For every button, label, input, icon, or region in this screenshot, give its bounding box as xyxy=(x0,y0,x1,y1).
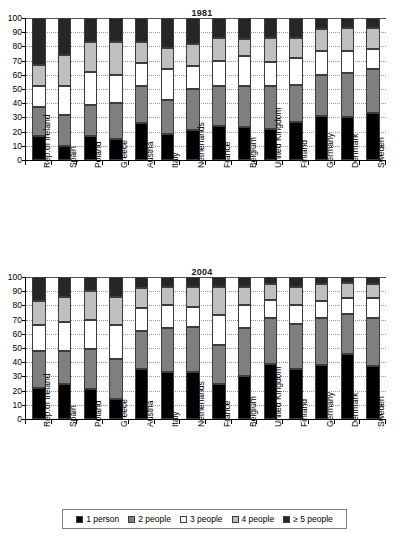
bar-segment xyxy=(161,48,174,69)
bar-greece xyxy=(109,18,122,160)
y-tick-label: 100 xyxy=(8,273,22,281)
x-tick-mark xyxy=(385,420,386,424)
y-tick-label: 30 xyxy=(13,113,22,121)
bar-segment xyxy=(161,287,174,305)
bar-segment xyxy=(341,283,354,299)
bar-segment xyxy=(289,58,302,85)
bar-segment xyxy=(212,18,225,38)
legend-item: 1 person xyxy=(76,514,119,524)
y-tick-label: 20 xyxy=(13,387,22,395)
legend-label: 4 people xyxy=(242,514,275,524)
bar-segment xyxy=(186,44,199,67)
bar-france xyxy=(212,18,225,160)
bar-segment xyxy=(212,61,225,87)
bar-segment xyxy=(238,86,251,127)
y-tick-label: 90 xyxy=(13,28,22,36)
bar-spain xyxy=(58,18,71,160)
bar-segment xyxy=(135,63,148,86)
y-tick-label: 60 xyxy=(13,71,22,79)
bar-segment xyxy=(238,287,251,305)
plot-wrap-2004: 0102030405060708090100Rep.of IrelandSpai… xyxy=(0,277,404,507)
bar-segment xyxy=(161,100,174,134)
plot-wrap-1981: 0102030405060708090100Rep.of IrelandSpai… xyxy=(0,18,404,258)
bar-finland xyxy=(289,277,302,419)
bar-segment xyxy=(289,277,302,287)
y-tick-label: 70 xyxy=(13,316,22,324)
y-tick-label: 40 xyxy=(13,99,22,107)
bar-segment xyxy=(109,103,122,139)
x-tick-mark xyxy=(308,420,309,424)
bar-segment xyxy=(161,69,174,100)
bar-segment xyxy=(341,298,354,314)
bar-segment xyxy=(315,75,328,116)
bar-segment xyxy=(58,297,71,323)
bar-segment xyxy=(212,345,225,383)
y-tick-label: 50 xyxy=(13,85,22,93)
x-tick-mark xyxy=(385,161,386,165)
x-tick-mark xyxy=(76,420,77,424)
legend-label: 2 people xyxy=(138,514,171,524)
x-tick-mark xyxy=(308,161,309,165)
bar-segment xyxy=(366,49,379,69)
bar-segment xyxy=(84,72,97,105)
bar-segment xyxy=(315,277,328,284)
bar-segment xyxy=(109,359,122,399)
bar-segment xyxy=(238,56,251,86)
y-tick-label: 10 xyxy=(13,142,22,150)
bar-segment xyxy=(84,291,97,319)
legend-swatch-icon xyxy=(128,516,135,523)
bar-segment xyxy=(315,301,328,318)
x-tick-mark xyxy=(256,420,257,424)
bar-segment xyxy=(32,86,45,107)
bar-segment xyxy=(58,351,71,384)
x-tick-mark xyxy=(154,420,155,424)
x-tick-label: United Kingdom xyxy=(273,367,283,427)
x-tick-label: Rep.of Ireland xyxy=(42,115,52,168)
bar-segment xyxy=(366,284,379,298)
legend-item: 2 people xyxy=(128,514,171,524)
legend-label: 3 people xyxy=(190,514,223,524)
bar-segment xyxy=(84,18,97,42)
bar-segment xyxy=(58,322,71,350)
bar-segment xyxy=(109,75,122,103)
bar-segment xyxy=(264,38,277,62)
bar-segment xyxy=(341,73,354,117)
bar-segment xyxy=(135,277,148,288)
x-tick-mark xyxy=(179,420,180,424)
bar-segment xyxy=(264,318,277,363)
chart-panel-1981: 1981 0102030405060708090100Rep.of Irelan… xyxy=(0,0,404,265)
legend-item: ≥ 5 people xyxy=(283,514,333,524)
bar-segment xyxy=(315,51,328,75)
bar-segment xyxy=(341,314,354,354)
bar-italy xyxy=(161,18,174,160)
bar-austria xyxy=(135,18,148,160)
bar-segment xyxy=(32,277,45,301)
legend-label: 1 person xyxy=(86,514,119,524)
y-tick-label: 80 xyxy=(13,42,22,50)
bar-segment xyxy=(161,305,174,328)
bar-segment xyxy=(341,51,354,74)
bar-france xyxy=(212,277,225,419)
x-tick-mark xyxy=(359,161,360,165)
bar-segment xyxy=(109,325,122,359)
x-tick-mark xyxy=(25,161,26,165)
x-tick-mark xyxy=(102,420,103,424)
bar-segment xyxy=(289,18,302,38)
x-tick-mark xyxy=(205,420,206,424)
bar-segment xyxy=(135,86,148,123)
bar-segment xyxy=(135,42,148,63)
bar-segment xyxy=(135,288,148,308)
bar-segment xyxy=(58,277,71,297)
bar-poland xyxy=(84,18,97,160)
y-tick-label: 90 xyxy=(13,287,22,295)
chart-legend: 1 person2 people3 people4 people≥ 5 peop… xyxy=(62,509,347,529)
bar-segment xyxy=(366,277,379,284)
bar-poland xyxy=(84,277,97,419)
bar-segment xyxy=(264,277,277,284)
bar-segment xyxy=(135,308,148,331)
y-tick-label: 50 xyxy=(13,344,22,352)
bar-segment xyxy=(212,86,225,126)
bar-segment xyxy=(32,301,45,325)
bar-segment xyxy=(161,18,174,48)
bar-segment xyxy=(58,18,71,55)
